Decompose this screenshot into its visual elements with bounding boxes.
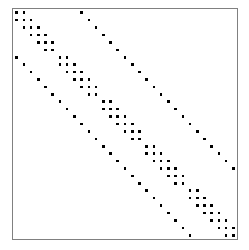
matrix-nonzero-marker	[116, 49, 119, 52]
matrix-nonzero-marker	[124, 130, 127, 133]
matrix-nonzero-marker	[51, 41, 54, 44]
matrix-nonzero-marker	[174, 167, 177, 170]
matrix-nonzero-marker	[131, 123, 134, 126]
matrix-nonzero-marker	[182, 175, 185, 178]
matrix-nonzero-marker	[30, 19, 33, 22]
matrix-nonzero-marker	[203, 197, 206, 200]
matrix-nonzero-marker	[109, 41, 112, 44]
matrix-nonzero-marker	[37, 26, 40, 29]
matrix-nonzero-marker	[174, 219, 177, 222]
matrix-nonzero-marker	[124, 115, 127, 118]
matrix-nonzero-marker	[153, 145, 156, 148]
matrix-nonzero-marker	[59, 63, 62, 66]
matrix-nonzero-marker	[196, 197, 199, 200]
matrix-nonzero-marker	[109, 108, 112, 111]
matrix-nonzero-marker	[153, 152, 156, 155]
matrix-nonzero-marker	[160, 152, 163, 155]
matrix-nonzero-marker	[189, 123, 192, 126]
matrix-nonzero-marker	[124, 56, 127, 59]
matrix-nonzero-marker	[73, 78, 76, 81]
spy-plot-figure	[0, 0, 249, 250]
matrix-nonzero-marker	[37, 34, 40, 37]
matrix-nonzero-marker	[116, 160, 119, 163]
matrix-nonzero-marker	[145, 152, 148, 155]
matrix-nonzero-marker	[95, 93, 98, 96]
matrix-nonzero-marker	[102, 100, 105, 103]
matrix-nonzero-marker	[145, 189, 148, 192]
matrix-nonzero-marker	[138, 182, 141, 185]
matrix-nonzero-marker	[88, 130, 91, 133]
matrix-nonzero-marker	[80, 11, 83, 14]
matrix-nonzero-marker	[73, 63, 76, 66]
matrix-nonzero-marker	[160, 160, 163, 163]
matrix-nonzero-marker	[44, 86, 47, 89]
matrix-nonzero-marker	[15, 56, 18, 59]
matrix-nonzero-marker	[116, 123, 119, 126]
matrix-nonzero-marker	[218, 152, 221, 155]
matrix-nonzero-marker	[44, 41, 47, 44]
matrix-nonzero-marker	[66, 108, 69, 111]
matrix-nonzero-marker	[160, 204, 163, 207]
matrix-nonzero-marker	[210, 204, 213, 207]
matrix-nonzero-marker	[37, 41, 40, 44]
matrix-nonzero-marker	[218, 212, 221, 215]
matrix-nonzero-marker	[203, 138, 206, 141]
matrix-nonzero-marker	[160, 93, 163, 96]
matrix-nonzero-marker	[131, 130, 134, 133]
matrix-nonzero-marker	[23, 11, 26, 14]
matrix-nonzero-marker	[88, 19, 91, 22]
matrix-nonzero-marker	[160, 167, 163, 170]
matrix-nonzero-marker	[15, 19, 18, 22]
matrix-nonzero-marker	[23, 26, 26, 29]
matrix-nonzero-marker	[232, 167, 235, 170]
matrix-nonzero-marker	[102, 34, 105, 37]
matrix-nonzero-marker	[182, 115, 185, 118]
matrix-nonzero-marker	[102, 108, 105, 111]
matrix-nonzero-marker	[174, 182, 177, 185]
matrix-nonzero-marker	[153, 86, 156, 89]
matrix-nonzero-marker	[138, 138, 141, 141]
matrix-nonzero-marker	[225, 219, 228, 222]
matrix-nonzero-marker	[167, 175, 170, 178]
matrix-nonzero-marker	[189, 197, 192, 200]
matrix-nonzero-marker	[167, 160, 170, 163]
matrix-nonzero-marker	[153, 160, 156, 163]
matrix-nonzero-marker	[182, 227, 185, 230]
matrix-nonzero-marker	[131, 63, 134, 66]
matrix-nonzero-marker	[124, 123, 127, 126]
matrix-nonzero-marker	[210, 219, 213, 222]
plot-frame	[12, 8, 238, 240]
matrix-nonzero-marker	[116, 115, 119, 118]
matrix-nonzero-marker	[51, 93, 54, 96]
matrix-nonzero-marker	[167, 212, 170, 215]
matrix-nonzero-marker	[218, 219, 221, 222]
matrix-nonzero-marker	[225, 234, 228, 237]
matrix-nonzero-marker	[80, 71, 83, 74]
matrix-nonzero-marker	[59, 56, 62, 59]
matrix-nonzero-marker	[95, 26, 98, 29]
matrix-nonzero-marker	[116, 108, 119, 111]
matrix-nonzero-marker	[196, 204, 199, 207]
matrix-nonzero-marker	[51, 49, 54, 52]
matrix-plot-area	[13, 9, 237, 239]
matrix-nonzero-marker	[189, 189, 192, 192]
matrix-nonzero-marker	[30, 71, 33, 74]
matrix-nonzero-marker	[210, 145, 213, 148]
matrix-nonzero-marker	[138, 71, 141, 74]
matrix-nonzero-marker	[80, 123, 83, 126]
matrix-nonzero-marker	[30, 34, 33, 37]
matrix-nonzero-marker	[167, 100, 170, 103]
matrix-nonzero-marker	[145, 78, 148, 81]
matrix-nonzero-marker	[153, 197, 156, 200]
matrix-nonzero-marker	[210, 212, 213, 215]
matrix-nonzero-marker	[73, 115, 76, 118]
matrix-nonzero-marker	[138, 130, 141, 133]
matrix-nonzero-marker	[174, 175, 177, 178]
matrix-nonzero-marker	[189, 234, 192, 237]
matrix-nonzero-marker	[88, 86, 91, 89]
matrix-nonzero-marker	[196, 189, 199, 192]
matrix-nonzero-marker	[44, 34, 47, 37]
matrix-nonzero-marker	[66, 71, 69, 74]
matrix-nonzero-marker	[66, 63, 69, 66]
matrix-nonzero-marker	[232, 227, 235, 230]
